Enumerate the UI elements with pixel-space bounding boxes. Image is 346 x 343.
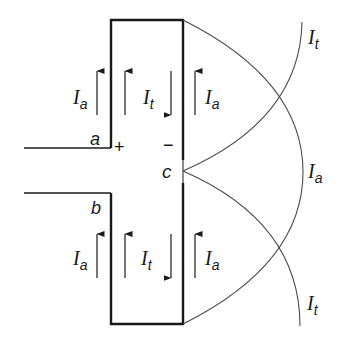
curve-label-it-top: It [307,26,320,52]
label-ia-lower-right: Ia [204,247,220,273]
terminal-a-label: a [90,129,100,149]
current-distribution-ia [183,20,303,324]
current-distribution-it-lower [183,171,300,326]
terminal-c-label: c [162,161,172,182]
label-ia-upper-left: Ia [72,86,88,112]
minus-sign: − [163,135,174,155]
label-it-upper: It [142,86,155,112]
antenna-current-diagram: Ia It Ia Ia It Ia a b c + − It Ia It [0,0,346,343]
plus-sign: + [114,137,125,157]
label-ia-upper-right: Ia [204,86,220,112]
curve-label-ia-middle: Ia [307,160,323,186]
current-distribution-it-upper [183,22,302,171]
label-it-lower: It [140,247,153,273]
curve-label-it-bottom: It [306,292,319,318]
label-ia-lower-left: Ia [72,247,88,273]
terminal-b-label: b [91,198,101,218]
